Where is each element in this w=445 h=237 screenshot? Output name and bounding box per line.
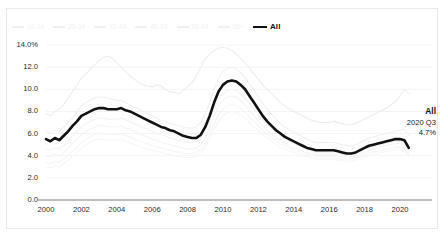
- x-tick-2014: 2014: [274, 206, 314, 214]
- x-tick-2002: 2002: [61, 206, 101, 214]
- x-tick-2010: 2010: [203, 206, 243, 214]
- x-tick-2020: 2020: [380, 206, 420, 214]
- x-axis-labels: 2000 2002 2004 2006 2008 2010 2012 2014 …: [0, 0, 445, 237]
- x-tick-2000: 2000: [26, 206, 66, 214]
- x-tick-2016: 2016: [309, 206, 349, 214]
- annotation-period: 2020 Q3: [407, 118, 436, 128]
- x-tick-2004: 2004: [97, 206, 137, 214]
- annotation-value: 4.7%: [407, 128, 436, 138]
- x-tick-2008: 2008: [168, 206, 208, 214]
- series-end-annotation: All 2020 Q3 4.7%: [407, 106, 436, 139]
- x-tick-2012: 2012: [238, 206, 278, 214]
- x-tick-2006: 2006: [132, 206, 172, 214]
- x-tick-2018: 2018: [345, 206, 385, 214]
- chart-figure: 16-24 25-34 35-44 45-54 55-64 65+ All: [0, 0, 445, 237]
- annotation-title: All: [407, 106, 436, 118]
